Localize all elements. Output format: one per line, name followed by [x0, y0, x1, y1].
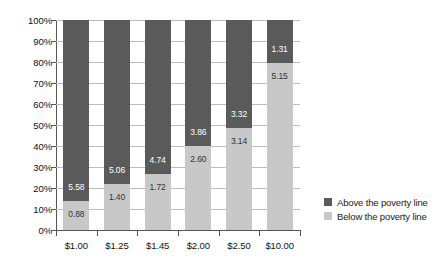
bar-column[interactable]: 1.315.15	[267, 20, 293, 230]
x-axis-tick-label: $10.00	[265, 240, 293, 251]
bar-value-label: 1.72	[145, 183, 171, 192]
bar-column[interactable]: 3.862.60	[185, 20, 211, 230]
gridline	[56, 209, 300, 210]
x-axis-tick-label: $1.00	[65, 240, 88, 251]
x-axis-tick-label: $1.25	[105, 240, 128, 251]
y-axis-tick-label: 10%	[8, 204, 52, 215]
y-axis-tick-label: 40%	[8, 141, 52, 152]
bar-value-label: 5.15	[267, 72, 293, 81]
bar-value-label: 5.58	[63, 183, 89, 192]
bar-segment-below-poverty-line[interactable]: 3.14	[226, 128, 252, 230]
stacked-bar-chart: 0%10%20%30%40%50%60%70%80%90%100% 5.580.…	[0, 0, 440, 266]
bar-value-label: 1.31	[267, 45, 293, 54]
bar-segment-above-poverty-line[interactable]: 1.31	[267, 20, 293, 63]
plot-area: 5.580.885.061.404.741.723.862.603.323.14…	[56, 20, 300, 230]
gridline	[56, 146, 300, 147]
gridline	[56, 83, 300, 84]
bar-value-label: 5.06	[104, 166, 130, 175]
gridline	[56, 104, 300, 105]
bar-value-label: 0.88	[63, 210, 89, 219]
bar-segment-above-poverty-line[interactable]: 5.06	[104, 20, 130, 184]
y-axis-tick-label: 70%	[8, 78, 52, 89]
bar-column[interactable]: 5.580.88	[63, 20, 89, 230]
bar-segment-above-poverty-line[interactable]: 3.86	[185, 20, 211, 146]
y-axis-tick-label: 80%	[8, 57, 52, 68]
x-axis-tick-mark	[178, 231, 179, 236]
bar-segment-below-poverty-line[interactable]: 5.15	[267, 63, 293, 230]
gridline	[56, 41, 300, 42]
x-axis-tick-mark	[137, 231, 138, 236]
x-axis-tick-label: $1.45	[146, 240, 169, 251]
y-axis-tick-label: 60%	[8, 99, 52, 110]
y-axis: 0%10%20%30%40%50%60%70%80%90%100%	[0, 0, 52, 266]
x-axis-tick-label: $2.00	[187, 240, 210, 251]
legend-swatch-icon	[324, 212, 332, 220]
gridline	[56, 188, 300, 189]
chart-legend: Above the poverty lineBelow the poverty …	[324, 196, 436, 224]
legend-item-label: Below the poverty line	[337, 211, 427, 222]
x-axis-tick-mark	[259, 231, 260, 236]
y-axis-tick-label: 20%	[8, 183, 52, 194]
bar-value-label: 3.86	[185, 128, 211, 137]
x-axis-tick-mark	[56, 231, 57, 236]
x-axis-tick-label: $2.50	[227, 240, 250, 251]
x-axis-tick-mark	[219, 231, 220, 236]
bar-segment-below-poverty-line[interactable]: 2.60	[185, 146, 211, 230]
bar-value-label: 4.74	[145, 156, 171, 165]
legend-swatch-icon	[324, 198, 332, 206]
y-axis-tick-label: 30%	[8, 162, 52, 173]
bar-segment-above-poverty-line[interactable]: 4.74	[145, 20, 171, 174]
bar-segment-below-poverty-line[interactable]: 1.40	[104, 184, 130, 230]
gridline	[56, 20, 300, 21]
bar-segment-above-poverty-line[interactable]: 5.58	[63, 20, 89, 201]
bar-column[interactable]: 3.323.14	[226, 20, 252, 230]
gridline	[56, 62, 300, 63]
legend-item[interactable]: Above the poverty line	[324, 196, 436, 208]
bar-value-label: 1.40	[104, 193, 130, 202]
bar-value-label: 3.32	[226, 110, 252, 119]
legend-item-label: Above the poverty line	[337, 197, 428, 208]
bar-value-label: 3.14	[226, 137, 252, 146]
bar-segment-below-poverty-line[interactable]: 1.72	[145, 174, 171, 230]
bar-segment-below-poverty-line[interactable]: 0.88	[63, 201, 89, 230]
x-axis-tick-mark	[97, 231, 98, 236]
x-axis-tick-mark	[300, 231, 301, 236]
bar-column[interactable]: 5.061.40	[104, 20, 130, 230]
y-axis-tick-label: 0%	[8, 225, 52, 236]
bar-value-label: 2.60	[185, 155, 211, 164]
y-axis-tick-label: 90%	[8, 36, 52, 47]
bar-segment-above-poverty-line[interactable]: 3.32	[226, 20, 252, 128]
bar-column[interactable]: 4.741.72	[145, 20, 171, 230]
gridline	[56, 125, 300, 126]
y-axis-tick-label: 50%	[8, 120, 52, 131]
legend-item[interactable]: Below the poverty line	[324, 210, 436, 222]
gridline	[56, 167, 300, 168]
y-axis-tick-label: 100%	[8, 15, 52, 26]
